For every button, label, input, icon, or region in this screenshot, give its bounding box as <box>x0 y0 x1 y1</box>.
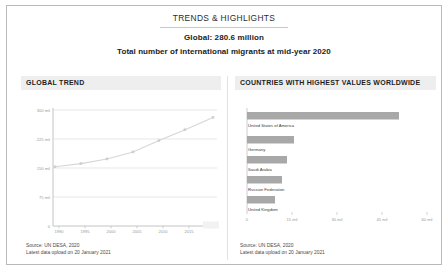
svg-text:45 mil: 45 mil <box>377 217 388 222</box>
svg-text:150 mil: 150 mil <box>37 166 50 171</box>
svg-text:Germany: Germany <box>248 147 266 152</box>
svg-text:Saudi Arabia: Saudi Arabia <box>248 167 272 172</box>
svg-text:1995: 1995 <box>80 229 90 234</box>
svg-text:Russian Federation: Russian Federation <box>248 187 285 192</box>
svg-text:15 mil: 15 mil <box>287 217 298 222</box>
bar-chart: United States of America Germany Saudi A… <box>235 92 436 234</box>
title-divider <box>160 27 288 28</box>
global-value: Global: 280.6 million <box>7 33 441 42</box>
x-tick-labels: 0 15 mil 30 mil 45 mil 60 mil <box>246 212 433 222</box>
trend-line <box>55 118 213 167</box>
line-chart: 300 mil 225 mil 150 mil 75 mil 0 1990 <box>21 92 221 234</box>
panel-title-global-trend: GLOBAL TREND <box>26 79 84 86</box>
report-page: TRENDS & HIGHLIGHTS Global: 280.6 millio… <box>6 5 442 265</box>
page-title: TRENDS & HIGHLIGHTS <box>7 13 441 23</box>
bar-russian-federation <box>247 176 282 184</box>
svg-text:75 mil: 75 mil <box>39 195 50 200</box>
bar-united-kingdom <box>247 196 275 204</box>
svg-text:300 mil: 300 mil <box>37 108 50 113</box>
gridlines <box>53 110 217 197</box>
svg-text:0: 0 <box>48 224 51 229</box>
report-header: TRENDS & HIGHLIGHTS Global: 280.6 millio… <box>7 6 441 56</box>
page-subtitle: Total number of international migrants a… <box>7 47 441 56</box>
line-chart-svg: 300 mil 225 mil 150 mil 75 mil 0 1990 <box>21 92 221 234</box>
bar-germany <box>247 136 294 144</box>
svg-text:0: 0 <box>246 217 249 222</box>
source-note-left: Source: UN DESA, 2020 Latest data upload… <box>26 243 111 256</box>
svg-text:2005: 2005 <box>132 229 142 234</box>
svg-text:2000: 2000 <box>106 229 116 234</box>
last-tick-highlight <box>203 222 219 229</box>
svg-text:United States of America: United States of America <box>248 123 295 128</box>
svg-text:1990: 1990 <box>54 229 64 234</box>
panel-divider <box>227 76 228 260</box>
panel-global-trend: GLOBAL TREND 300 mil 225 mil 150 mil <box>21 76 221 260</box>
trend-markers <box>54 116 215 168</box>
svg-text:2015: 2015 <box>184 229 194 234</box>
svg-text:60 mil: 60 mil <box>422 217 433 222</box>
svg-text:2010: 2010 <box>158 229 168 234</box>
svg-text:United Kingdom: United Kingdom <box>248 207 278 212</box>
bar-saudi-arabia <box>247 156 287 164</box>
svg-text:225 mil: 225 mil <box>37 137 50 142</box>
x-tick-labels: 1990 1995 2000 2005 2010 2015 <box>54 226 213 234</box>
svg-text:30 mil: 30 mil <box>332 217 343 222</box>
source-note-right: Source: UN DESA, 2020 Latest data upload… <box>240 243 325 256</box>
source-line-2: Latest data upload on 20 January 2021 <box>26 250 111 256</box>
bar-united-states-of-america <box>247 112 399 120</box>
panel-highest-values: COUNTRIES WITH HIGHEST VALUES WORLDWIDE … <box>235 76 436 260</box>
bar-chart-svg: United States of America Germany Saudi A… <box>235 92 436 234</box>
panel-title-highest-values: COUNTRIES WITH HIGHEST VALUES WORLDWIDE <box>240 79 420 86</box>
y-tick-labels: 300 mil 225 mil 150 mil 75 mil 0 <box>37 108 51 229</box>
source-line-2: Latest data upload on 20 January 2021 <box>240 250 325 256</box>
